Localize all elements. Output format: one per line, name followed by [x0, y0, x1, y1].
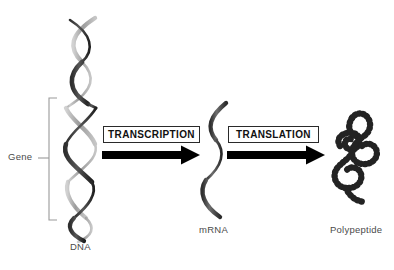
process-label-transcription: TRANSCRIPTION	[103, 126, 200, 143]
mrna-label: mRNA	[199, 224, 228, 235]
transcription-arrow-icon	[102, 146, 200, 165]
mrna-single-strand-icon	[202, 103, 226, 217]
dna-label: DNA	[70, 241, 91, 252]
gene-label: Gene	[8, 151, 32, 162]
polypeptide-label: Polypeptide	[330, 224, 382, 235]
translation-arrow-icon	[227, 146, 325, 165]
polypeptide-bead-chain-icon	[335, 114, 377, 203]
process-label-translation: TRANSLATION	[228, 126, 319, 143]
gene-bracket	[38, 98, 57, 220]
dna-double-helix-icon	[65, 18, 96, 242]
diagram-canvas: TRANSCRIPTION TRANSLATION Gene DNA mRNA …	[0, 0, 394, 270]
